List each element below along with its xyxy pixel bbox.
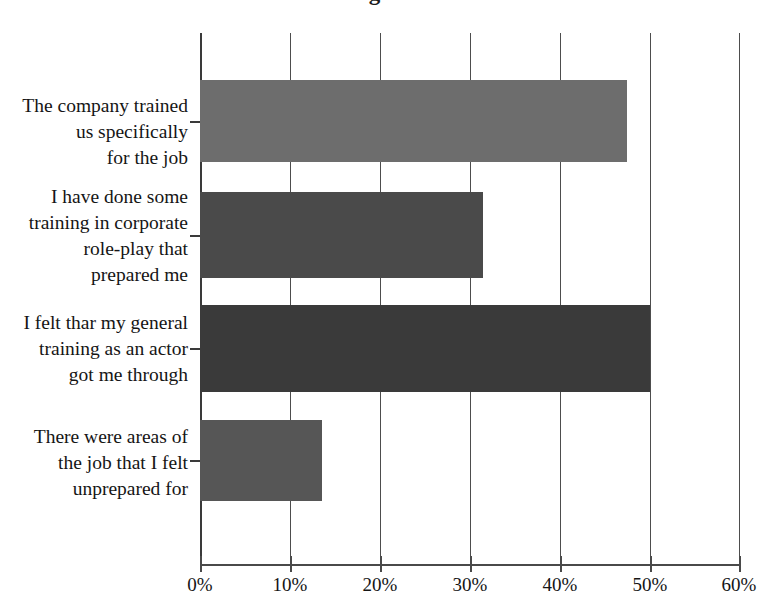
x-axis-label-30: 30% (435, 574, 505, 596)
category-label-1-line-2: us specifically (0, 119, 188, 145)
bar-4 (200, 420, 322, 501)
category-label-4-line-1: There were areas of (0, 424, 188, 450)
category-label-2-line-3: role-play that (0, 236, 188, 262)
category-label-3-line-2: training as an actor (0, 336, 188, 362)
bar-3 (200, 305, 650, 392)
x-axis-label-20: 20% (345, 574, 415, 596)
x-axis-label-50: 50% (615, 574, 685, 596)
category-label-3-line-1: I felt thar my general (0, 310, 188, 336)
bar-1 (200, 80, 627, 162)
x-axis-label-40: 40% (525, 574, 595, 596)
x-axis-tick-10 (290, 556, 292, 572)
category-label-4-line-2: the job that I felt (0, 450, 188, 476)
category-label-2-line-2: training in corporate (0, 210, 188, 236)
category-label-2: I have done some training in corporate r… (0, 184, 188, 288)
bar-2 (200, 192, 483, 278)
x-axis-tick-50 (650, 556, 652, 572)
category-label-4: There were areas of the job that I felt … (0, 424, 188, 502)
category-label-2-line-1: I have done some (0, 184, 188, 210)
category-label-3: I felt thar my general training as an ac… (0, 310, 188, 388)
category-label-2-line-4: prepared me (0, 262, 188, 288)
x-axis-tick-60 (739, 556, 741, 572)
category-label-3-line-3: got me through (0, 362, 188, 388)
category-label-1-line-1: The company trained (0, 93, 188, 119)
x-axis-label-0: 0% (165, 574, 235, 596)
plot-area (200, 33, 740, 565)
x-axis-label-10: 10% (255, 574, 325, 596)
category-axis-labels: The company trained us specifically for … (0, 0, 196, 606)
category-label-1: The company trained us specifically for … (0, 93, 188, 171)
x-axis-tick-0 (200, 556, 202, 572)
x-axis-tick-30 (470, 556, 472, 572)
x-axis-tick-40 (560, 556, 562, 572)
gridline-60 (739, 33, 740, 565)
category-label-1-line-3: for the job (0, 145, 188, 171)
category-label-4-line-3: unprepared for (0, 476, 188, 502)
x-axis-tick-20 (380, 556, 382, 572)
x-axis-label-60: 60% (704, 574, 761, 596)
gridline-50 (650, 33, 651, 565)
